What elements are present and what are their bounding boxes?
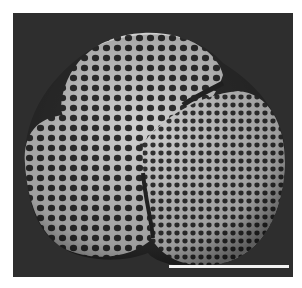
scale-bar xyxy=(169,265,289,268)
scale-bar-label xyxy=(0,0,1,1)
pollen-grain xyxy=(13,13,293,277)
micrograph-panel xyxy=(13,13,293,277)
